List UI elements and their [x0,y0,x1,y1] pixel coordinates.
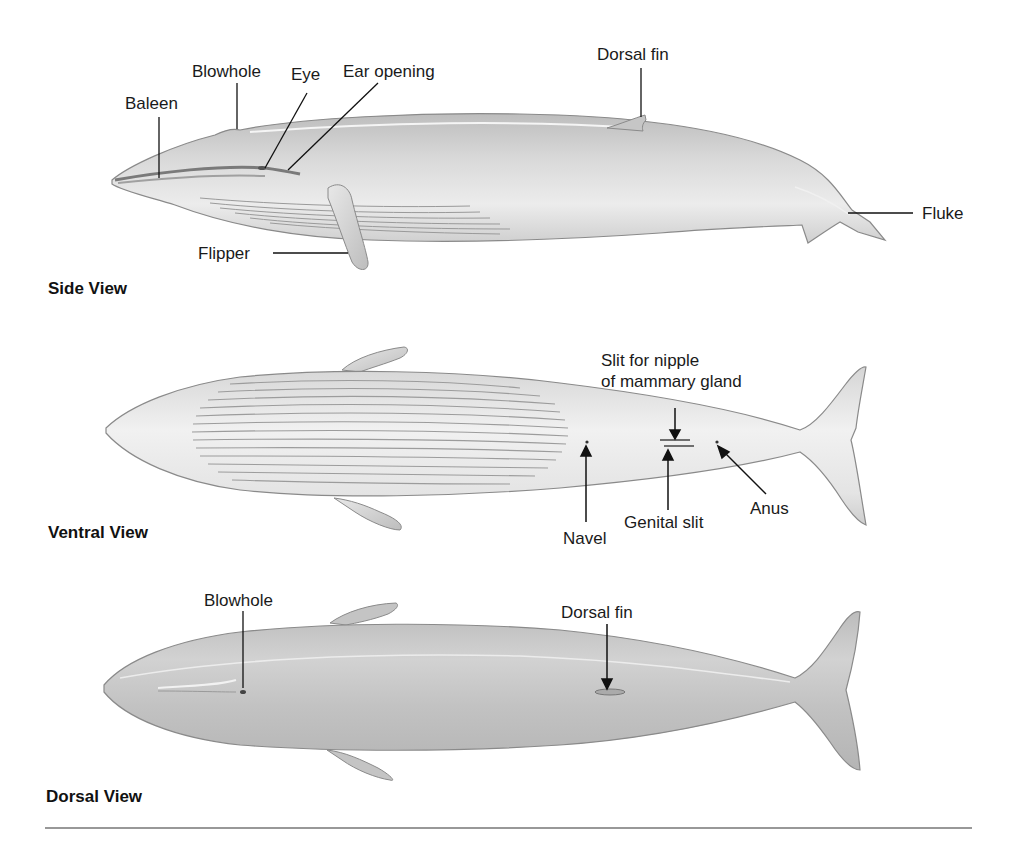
view-title-ventral: Ventral View [48,524,148,541]
label-navel: Navel [563,530,606,547]
label-baleen: Baleen [125,95,178,112]
label-fluke: Fluke [922,205,964,222]
label-dorsal-fin-dorsal: Dorsal fin [561,604,633,621]
label-ear-opening: Ear opening [343,63,435,80]
view-title-side: Side View [48,280,127,297]
label-genital-slit: Genital slit [624,514,703,531]
whale-illustrations [0,0,1023,843]
label-anus: Anus [750,500,789,517]
label-blowhole-dorsal: Blowhole [204,592,273,609]
label-flipper: Flipper [198,245,250,262]
label-blowhole-side: Blowhole [192,63,261,80]
whale-anatomy-figure: Baleen Blowhole Eye Ear opening Dorsal f… [0,0,1023,843]
label-slit-for-nipple: Slit for nipple of mammary gland [601,350,742,392]
view-title-dorsal: Dorsal View [46,788,142,805]
dorsal-view-whale [104,603,860,780]
label-eye: Eye [291,66,320,83]
label-dorsal-fin-side: Dorsal fin [597,46,669,63]
